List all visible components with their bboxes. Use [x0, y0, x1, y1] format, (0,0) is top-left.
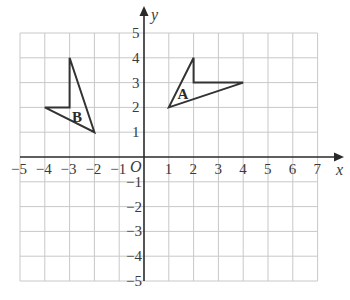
- x-tick-label: −1: [110, 161, 126, 177]
- x-tick-label: 6: [289, 161, 297, 177]
- shape-label-b: B: [72, 109, 82, 125]
- x-tick-label: 7: [314, 161, 322, 177]
- coordinate-grid: x y O −5−4−3−2−1123456754321−1−2−3−4−5 A…: [0, 0, 350, 300]
- x-tick-label: 2: [190, 161, 198, 177]
- x-tick-label: −3: [61, 161, 77, 177]
- x-tick-label: 3: [214, 161, 222, 177]
- y-tick-label: −2: [126, 199, 142, 215]
- x-axis-label: x: [335, 161, 343, 178]
- y-tick-label: 5: [132, 25, 140, 41]
- y-tick-label: 3: [132, 75, 140, 91]
- y-tick-label: −3: [126, 223, 142, 239]
- y-tick-label: −1: [126, 174, 142, 190]
- x-tick-label: 5: [264, 161, 272, 177]
- x-tick-label: −2: [85, 161, 101, 177]
- axes: x y O: [20, 6, 344, 281]
- origin-label: O: [130, 158, 142, 175]
- x-tick-label: 1: [165, 161, 173, 177]
- x-tick-label: −4: [36, 161, 52, 177]
- shape-label-a: A: [177, 86, 188, 102]
- y-axis-label: y: [149, 6, 159, 24]
- y-tick-label: 2: [132, 99, 140, 115]
- y-tick-label: −5: [126, 273, 142, 289]
- x-tick-label: 4: [239, 161, 247, 177]
- y-tick-label: 1: [132, 124, 140, 140]
- y-axis-arrow-icon: [140, 6, 149, 16]
- y-tick-label: −4: [126, 248, 142, 264]
- x-tick-label: −5: [11, 161, 27, 177]
- y-tick-label: 4: [132, 50, 140, 66]
